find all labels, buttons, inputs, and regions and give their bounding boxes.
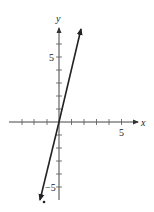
coordinate-plane: x y 5 5 −5 <box>0 0 154 212</box>
x-axis-label: x <box>140 117 146 128</box>
line-y-equals-4x <box>59 29 81 122</box>
dot-marker <box>43 201 46 204</box>
y-axis-label: y <box>55 13 61 24</box>
y-tick-label-neg-5: −5 <box>45 182 56 193</box>
y-tick-label-5: 5 <box>49 52 54 63</box>
x-tick-label-5: 5 <box>119 127 124 138</box>
